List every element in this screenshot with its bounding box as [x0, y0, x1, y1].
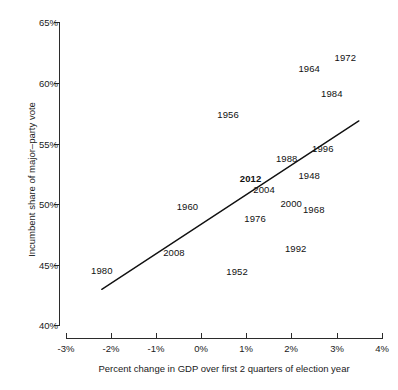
x-tick-label-neg1: -1%	[148, 343, 165, 354]
x-tick-3	[337, 333, 338, 338]
y-tick-label-60: 60%	[39, 78, 58, 89]
x-axis-line	[66, 338, 383, 339]
point-label-1968: 1968	[303, 204, 325, 215]
x-tick-1	[246, 333, 247, 338]
x-axis-title: Percent change in GDP over first 2 quart…	[59, 363, 389, 374]
x-tick-0	[201, 333, 202, 338]
point-label-1988: 1988	[276, 153, 298, 164]
point-label-1976: 1976	[244, 212, 266, 223]
x-tick-2	[291, 333, 292, 338]
point-label-1972: 1972	[335, 51, 357, 62]
point-label-1948: 1948	[298, 170, 320, 181]
x-tick-label-1: 1%	[239, 343, 253, 354]
y-tick-label-45: 45%	[39, 260, 58, 271]
point-label-1960: 1960	[177, 200, 199, 211]
x-tick-neg1	[156, 333, 157, 338]
point-label-2012: 2012	[240, 172, 262, 183]
y-axis-line	[59, 22, 60, 326]
point-label-1984: 1984	[321, 87, 343, 98]
y-tick-label-40: 40%	[39, 320, 58, 331]
point-label-2008: 2008	[163, 246, 185, 257]
y-axis-title: Incumbent share of major–party vote	[26, 65, 37, 295]
point-label-1996: 1996	[312, 142, 334, 153]
point-label-1980: 1980	[91, 264, 113, 275]
point-label-2004: 2004	[253, 183, 275, 194]
point-label-1956: 1956	[217, 108, 239, 119]
point-label-1952: 1952	[226, 266, 248, 277]
x-tick-label-2: 2%	[284, 343, 298, 354]
plot-area: 65% 60% 55% 50% 45% 40% -3% -2% -1% 0% 1…	[0, 0, 398, 390]
x-tick-label-neg2: -2%	[103, 343, 120, 354]
x-tick-label-0: 0%	[194, 343, 208, 354]
point-label-2000: 2000	[280, 198, 302, 209]
scatter-chart-figure: 65% 60% 55% 50% 45% 40% -3% -2% -1% 0% 1…	[0, 0, 398, 390]
x-tick-neg2	[111, 333, 112, 338]
point-label-1964: 1964	[298, 62, 320, 73]
x-tick-neg3	[66, 333, 67, 338]
point-label-1992: 1992	[285, 243, 307, 254]
x-tick-label-neg3: -3%	[58, 343, 75, 354]
y-tick-label-65: 65%	[39, 17, 58, 28]
x-tick-label-4: 4%	[375, 343, 389, 354]
y-tick-label-50: 50%	[39, 199, 58, 210]
x-tick-4	[382, 333, 383, 338]
y-tick-label-55: 55%	[39, 139, 58, 150]
x-tick-label-3: 3%	[330, 343, 344, 354]
